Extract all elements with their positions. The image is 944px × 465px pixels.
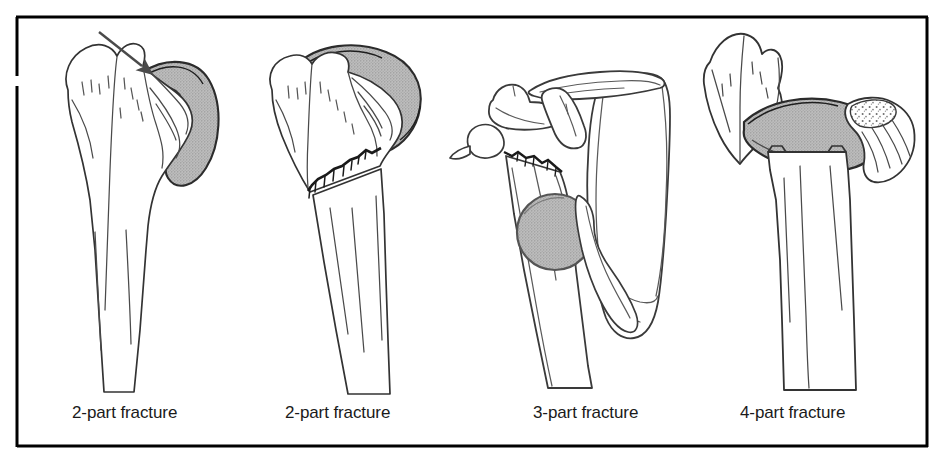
illustration-canvas: 2-part fracture 2-part fracture 3-part f… xyxy=(0,0,944,465)
caption-panel-2: 2-part fracture xyxy=(285,403,390,422)
caption-panel-3: 3-part fracture xyxy=(533,403,638,422)
caption-panel-4: 4-part fracture xyxy=(740,403,845,422)
figure-plate: 2-part fracture 2-part fracture 3-part f… xyxy=(0,0,944,465)
caption-panel-1: 2-part fracture xyxy=(72,403,177,422)
